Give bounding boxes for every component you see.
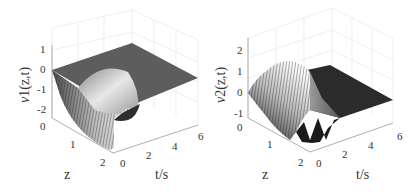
- z-tick: -2: [37, 104, 46, 115]
- y-tick: 6: [397, 131, 403, 142]
- z-axis-title-suffix: 1(z,t): [17, 67, 32, 97]
- z-tick: 0: [40, 64, 46, 75]
- x-axis-title: z: [64, 168, 70, 182]
- y-tick: 0: [316, 158, 322, 169]
- y-tick: 4: [368, 140, 374, 151]
- x-tick: 1: [267, 139, 273, 150]
- z-tick: 1: [40, 44, 46, 55]
- z-axis-title: v2(z,t): [214, 67, 228, 103]
- y-axis-title: t/s: [356, 168, 369, 182]
- y-tick: 2: [146, 150, 152, 161]
- x-axis-title: z: [262, 168, 268, 182]
- z-tick: -1: [234, 108, 243, 119]
- x-tick: 1: [70, 139, 76, 150]
- y-tick: 2: [342, 149, 348, 160]
- z-axis-title-suffix: 2(z,t): [213, 67, 228, 97]
- z-axis-title: v1(z,t): [18, 67, 32, 103]
- z-axis-title-prefix: v: [213, 97, 228, 103]
- z-tick: -1: [37, 84, 46, 95]
- z-tick: 2: [237, 45, 243, 56]
- z-tick: 0: [237, 87, 243, 98]
- x-tick: 0: [237, 122, 243, 133]
- surface-plot-v1: 1 0 -1 -2 0 1 2 0 2 4 6 z t/s v1(z,t): [0, 0, 210, 194]
- x-tick: 2: [100, 157, 106, 168]
- y-tick: 6: [198, 131, 204, 142]
- y-axis-title: t/s: [155, 168, 168, 182]
- y-tick: 4: [172, 141, 178, 152]
- x-tick: 0: [40, 121, 46, 132]
- y-tick: 0: [120, 158, 126, 169]
- z-axis-title-prefix: v: [17, 97, 32, 103]
- surface-plot-v2: 2 1 0 -1 0 1 2 0 2 4 6 z t/s v2(z,t): [210, 0, 420, 194]
- x-tick: 2: [298, 157, 304, 168]
- surface-dips: [296, 118, 340, 143]
- z-tick: 1: [237, 66, 243, 77]
